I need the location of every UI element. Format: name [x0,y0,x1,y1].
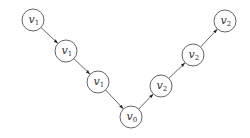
edge-arrow-n2-n3 [74,59,90,74]
edge-arrow-n5-n6 [169,63,185,78]
node-v2: v2 [150,75,172,97]
node-v2: v2 [214,10,236,32]
edge-arrow-n4-n5 [139,94,153,109]
node-v1: v1 [87,71,109,93]
nodes-layer: v1v1v1v0v2v2v2 [22,9,236,128]
edge-arrow-n6-n7 [201,29,218,47]
node-v1: v1 [55,40,77,62]
node-v0: v0 [120,106,142,128]
graph-diagram: v1v1v1v0v2v2v2 [0,0,250,138]
node-v1: v1 [22,9,44,31]
edge-arrow-n1-n2 [41,28,58,44]
edge-arrow-n3-n4 [106,90,124,109]
node-v2: v2 [182,44,204,66]
